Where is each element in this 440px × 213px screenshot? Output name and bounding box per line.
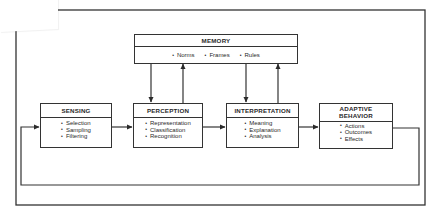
perception-items: Representation Classification Recognitio… (145, 118, 190, 140)
adaptive-title-line2: BEHAVIOR (320, 113, 392, 120)
adaptive-item: Outcomes (340, 129, 372, 136)
interpretation-item: Analysis (244, 133, 280, 140)
sensing-item: Sampling (61, 127, 91, 134)
adaptive-behavior-box: ADAPTIVE BEHAVIOR Actions Outcomes Effec… (319, 103, 393, 149)
memory-item: Frames (205, 52, 230, 59)
perception-item: Classification (145, 127, 190, 134)
adaptive-behavior-items: Actions Outcomes Effects (340, 122, 372, 143)
adaptive-item: Actions (340, 123, 372, 130)
memory-item: Norms (172, 52, 194, 59)
interpretation-item: Explanation (244, 127, 280, 134)
perception-item: Representation (145, 120, 190, 127)
memory-title: MEMORY (135, 35, 297, 47)
sensing-item: Selection (61, 120, 91, 127)
interpretation-item: Meaning (244, 120, 280, 127)
perception-title: PERCEPTION (134, 104, 202, 118)
interpretation-items: Meaning Explanation Analysis (244, 118, 280, 140)
sensing-items: Selection Sampling Filtering (61, 118, 91, 140)
diagram-canvas: MEMORY Norms Frames Rules SENSING Select… (0, 0, 440, 213)
sensing-item: Filtering (61, 133, 91, 140)
sensing-box: SENSING Selection Sampling Filtering (40, 103, 112, 148)
perception-box: PERCEPTION Representation Classification… (133, 103, 203, 148)
interpretation-box: INTERPRETATION Meaning Explanation Analy… (226, 103, 299, 148)
memory-box: MEMORY Norms Frames Rules (134, 34, 298, 64)
paper-overlay (0, 0, 58, 32)
adaptive-item: Effects (340, 136, 372, 143)
memory-items: Norms Frames Rules (135, 47, 297, 59)
memory-item: Rules (240, 52, 260, 59)
interpretation-title: INTERPRETATION (227, 104, 298, 118)
adaptive-behavior-title: ADAPTIVE BEHAVIOR (320, 104, 392, 122)
perception-item: Recognition (145, 133, 190, 140)
sensing-title: SENSING (41, 104, 111, 118)
